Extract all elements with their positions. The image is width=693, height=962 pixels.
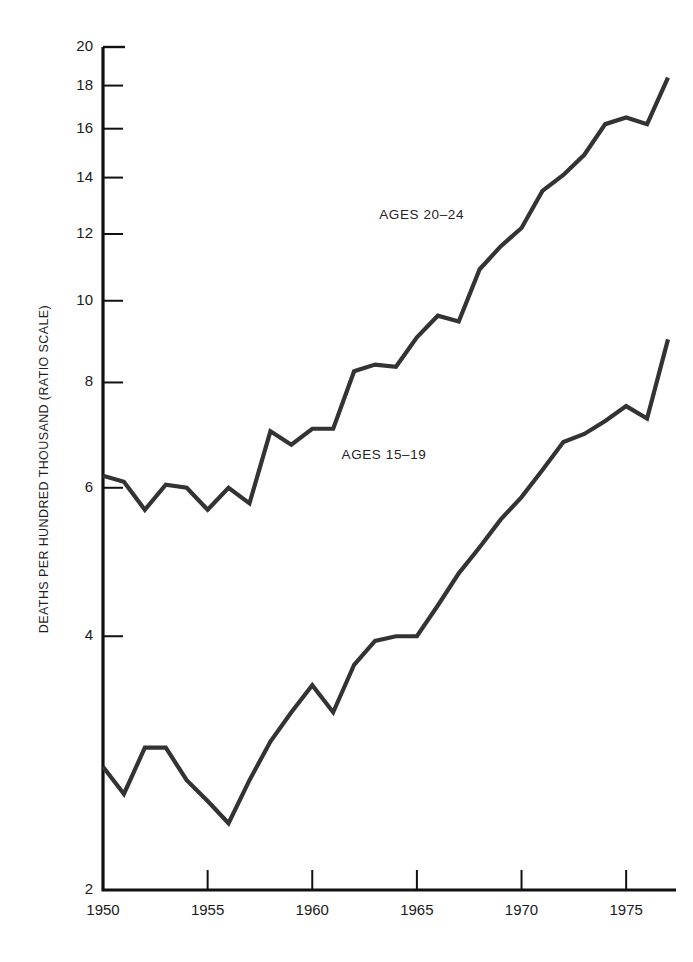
y-axis-title: DEATHS PER HUNDRED THOUSAND (RATIO SCALE…: [37, 304, 51, 632]
series-label-ages-20-24: AGES 20–24: [379, 207, 464, 222]
chart-figure: DEATHS PER HUNDRED THOUSAND (RATIO SCALE…: [0, 0, 693, 962]
y-tick-label: 14: [76, 168, 93, 185]
x-tick-label: 1975: [586, 901, 666, 918]
y-tick-label: 6: [85, 478, 93, 495]
y-tick-label: 8: [85, 372, 93, 389]
line-chart-plot: [0, 0, 693, 962]
y-tick-label: 12: [76, 224, 93, 241]
x-tick-label: 1965: [377, 901, 457, 918]
y-axis-ticks: [103, 47, 125, 636]
x-tick-label: 1970: [482, 901, 562, 918]
axis-lines: [103, 47, 676, 890]
x-tick-label: 1960: [272, 901, 352, 918]
y-tick-label: 20: [76, 37, 93, 54]
x-tick-label: 1950: [63, 901, 143, 918]
y-tick-label: 18: [76, 76, 93, 93]
x-tick-label: 1955: [168, 901, 248, 918]
x-axis-ticks: [208, 870, 627, 890]
y-tick-label: 16: [76, 119, 93, 136]
y-tick-label: 2: [85, 880, 93, 897]
series-label-ages-15-19: AGES 15–19: [342, 447, 427, 462]
y-tick-label: 4: [85, 626, 93, 643]
y-tick-label: 10: [76, 291, 93, 308]
